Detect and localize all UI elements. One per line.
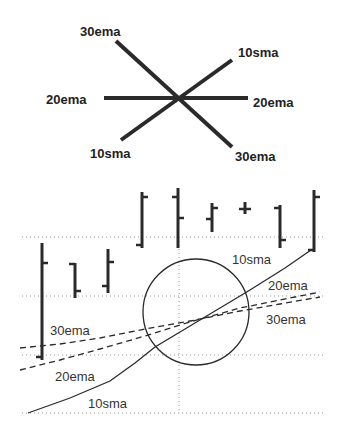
crossover-diagram: 30ema10sma20ema20ema10sma30ema — [46, 24, 294, 164]
ohlc-bar — [36, 243, 48, 360]
crossover-label-10sma: 10sma — [90, 146, 131, 161]
crossover-label-20ema: 20ema — [253, 95, 294, 110]
ohlc-bar — [206, 203, 218, 232]
ohlc-bar — [172, 188, 184, 248]
ohlc-bar — [274, 205, 286, 248]
moving-average-crossover-illustration: 30ema10sma20ema20ema10sma30ema 10sma20em… — [0, 0, 345, 444]
chart-label-20ema: 20ema — [55, 369, 96, 384]
chart-label-10sma: 10sma — [88, 396, 128, 411]
chart-label-10sma: 10sma — [232, 252, 272, 267]
crossover-label-30ema: 30ema — [80, 24, 121, 39]
price-chart-labels: 10sma20ema30ema30ema20ema10sma — [50, 252, 309, 411]
ohlc-bar — [308, 190, 320, 252]
crossover-label-10sma: 10sma — [238, 45, 279, 60]
ohlc-bar — [102, 249, 114, 293]
chart-label-20ema: 20ema — [268, 278, 309, 293]
chart-label-30ema: 30ema — [50, 323, 91, 338]
chart-label-30ema: 30ema — [266, 312, 307, 327]
crossover-circle — [143, 259, 249, 365]
ohlc-bar — [69, 263, 81, 298]
crossover-label-20ema: 20ema — [46, 92, 87, 107]
crossover-highlight — [143, 259, 249, 365]
ohlc-bar — [136, 192, 148, 248]
crossover-label-30ema: 30ema — [235, 149, 276, 164]
ohlc-bar — [239, 202, 251, 214]
